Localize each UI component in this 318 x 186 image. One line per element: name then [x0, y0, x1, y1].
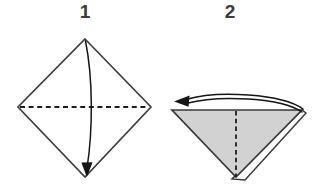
step-2-number: 2 — [225, 1, 236, 22]
step-2-arrow-shaft-outer — [186, 94, 303, 109]
step-2-paper-triangle — [172, 110, 302, 177]
step-1-group: 1 — [18, 1, 151, 177]
origami-diagram-canvas: 1 2 — [0, 0, 318, 186]
origami-diagram: 1 2 — [0, 0, 318, 186]
step-2-group: 2 — [172, 1, 306, 180]
step-1-paper-diamond — [18, 39, 151, 177]
step-2-arrow-head — [174, 96, 190, 107]
step-1-number: 1 — [80, 1, 91, 22]
